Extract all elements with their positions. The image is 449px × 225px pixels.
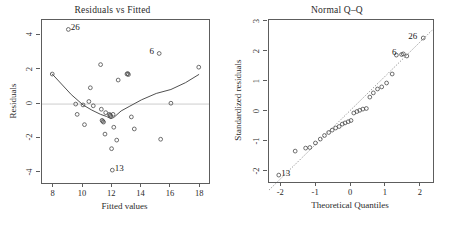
data-point bbox=[115, 138, 119, 142]
data-point bbox=[132, 127, 136, 131]
y-tick-mark bbox=[36, 171, 40, 172]
data-point bbox=[293, 149, 297, 153]
x-tick-mark bbox=[384, 182, 385, 186]
data-point bbox=[129, 115, 133, 119]
data-point bbox=[197, 65, 201, 69]
data-point bbox=[116, 78, 120, 82]
y-tick-label: -1 bbox=[250, 130, 262, 152]
data-point bbox=[390, 72, 394, 76]
x-tick-label: -1 bbox=[300, 187, 330, 197]
panel-title-residuals-vs-fitted: Residuals vs Fitted bbox=[0, 5, 225, 15]
data-point bbox=[103, 132, 107, 136]
data-point bbox=[380, 85, 384, 89]
x-tick-mark bbox=[169, 183, 170, 187]
data-point bbox=[308, 146, 312, 150]
x-tick-label: 2 bbox=[405, 187, 435, 197]
x-tick-label: 8 bbox=[38, 188, 68, 198]
data-point bbox=[75, 112, 79, 116]
data-point bbox=[83, 123, 87, 127]
y-tick-label: -4 bbox=[23, 161, 35, 183]
data-point bbox=[159, 137, 163, 141]
x-tick-mark bbox=[280, 182, 281, 186]
x-tick-label: 16 bbox=[155, 188, 185, 198]
y-tick-mark bbox=[36, 103, 40, 104]
data-point bbox=[104, 111, 108, 115]
data-point bbox=[66, 28, 70, 32]
x-tick-mark bbox=[52, 183, 53, 187]
data-point bbox=[421, 36, 425, 40]
x-tick-label: 10 bbox=[67, 188, 97, 198]
x-tick-label: 1 bbox=[370, 187, 400, 197]
x-tick-mark bbox=[199, 183, 200, 187]
plot-canvas-normal-qq bbox=[269, 20, 433, 182]
data-point bbox=[277, 173, 281, 177]
data-point bbox=[157, 52, 161, 56]
data-point bbox=[110, 147, 114, 151]
panel-residuals-vs-fitted: Residuals vs Fitted Fitted values Residu… bbox=[0, 0, 225, 225]
y-tick-mark bbox=[263, 110, 267, 111]
panel-normal-qq: Normal Q–Q Theoretical Quantiles Standar… bbox=[225, 0, 449, 225]
data-point bbox=[318, 137, 322, 141]
x-tick-mark bbox=[111, 183, 112, 187]
x-tick-mark bbox=[419, 182, 420, 186]
x-tick-mark bbox=[140, 183, 141, 187]
data-point bbox=[368, 95, 372, 99]
y-tick-mark bbox=[36, 68, 40, 69]
y-tick-label: 0 bbox=[250, 100, 262, 122]
y-tick-mark bbox=[263, 50, 267, 51]
outlier-label-26: 26 bbox=[408, 31, 417, 41]
y-tick-label: 0 bbox=[23, 92, 35, 114]
data-point bbox=[405, 54, 409, 58]
outlier-label-6: 6 bbox=[392, 47, 397, 57]
y-tick-label: 3 bbox=[250, 10, 262, 32]
y-tick-label: 2 bbox=[250, 40, 262, 62]
data-point bbox=[376, 87, 380, 91]
x-axis-label-theoretical-quantiles: Theoretical Quantiles bbox=[268, 200, 432, 210]
x-axis-label-fitted-values: Fitted values bbox=[41, 201, 208, 211]
y-axis-label-residuals: Residuals bbox=[6, 19, 18, 182]
data-point bbox=[87, 100, 91, 104]
y-tick-label: -2 bbox=[250, 160, 262, 182]
y-tick-label: 1 bbox=[250, 70, 262, 92]
data-point bbox=[110, 168, 114, 172]
y-tick-mark bbox=[36, 137, 40, 138]
plot-area-residuals-vs-fitted bbox=[41, 19, 210, 184]
outlier-label-6: 6 bbox=[149, 46, 154, 56]
y-tick-mark bbox=[263, 20, 267, 21]
data-point bbox=[304, 146, 308, 150]
y-tick-label: -2 bbox=[23, 126, 35, 148]
y-axis-label-standardized-residuals: Standardized residuals bbox=[232, 19, 244, 181]
plot-canvas-residuals-vs-fitted bbox=[42, 20, 209, 183]
x-tick-mark bbox=[315, 182, 316, 186]
outlier-label-13: 13 bbox=[115, 163, 124, 173]
x-tick-label: 18 bbox=[184, 188, 214, 198]
y-tick-label: 4 bbox=[23, 23, 35, 45]
x-tick-label: 12 bbox=[96, 188, 126, 198]
data-point bbox=[385, 81, 389, 85]
y-tick-mark bbox=[263, 80, 267, 81]
x-tick-label: 0 bbox=[335, 187, 365, 197]
x-tick-label: 14 bbox=[126, 188, 156, 198]
data-point bbox=[99, 63, 103, 67]
x-tick-mark bbox=[350, 182, 351, 186]
data-point bbox=[371, 91, 375, 95]
y-tick-mark bbox=[36, 34, 40, 35]
x-tick-label: -2 bbox=[265, 187, 295, 197]
data-point bbox=[88, 86, 92, 90]
outlier-label-26: 26 bbox=[71, 22, 80, 32]
diagnostic-plots-figure: Residuals vs Fitted Fitted values Residu… bbox=[0, 0, 449, 225]
y-tick-mark bbox=[263, 170, 267, 171]
data-point bbox=[99, 107, 103, 111]
plot-area-normal-qq bbox=[268, 19, 434, 183]
data-point bbox=[169, 101, 173, 105]
y-tick-mark bbox=[263, 140, 267, 141]
x-tick-mark bbox=[82, 183, 83, 187]
outlier-label-13: 13 bbox=[281, 168, 290, 178]
data-point bbox=[323, 134, 327, 138]
y-tick-label: 2 bbox=[23, 58, 35, 80]
data-point bbox=[112, 125, 116, 129]
